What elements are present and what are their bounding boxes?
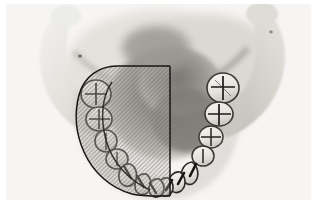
- tooth-right-first-molar: [205, 102, 233, 126]
- tooth-right-second-molar: [207, 73, 239, 103]
- right-condyle: [246, 2, 278, 26]
- top-margin: [0, 0, 317, 4]
- specimen-mark-left: [78, 54, 82, 57]
- right-margin: [312, 0, 317, 224]
- bottom-margin: [0, 200, 317, 224]
- figure-container: [0, 0, 317, 224]
- left-condyle: [51, 5, 81, 27]
- tooth-right-second-premolar: [199, 126, 223, 148]
- specimen-mark-right: [269, 31, 273, 34]
- left-margin: [0, 0, 5, 224]
- mandible-photograph: [0, 0, 317, 224]
